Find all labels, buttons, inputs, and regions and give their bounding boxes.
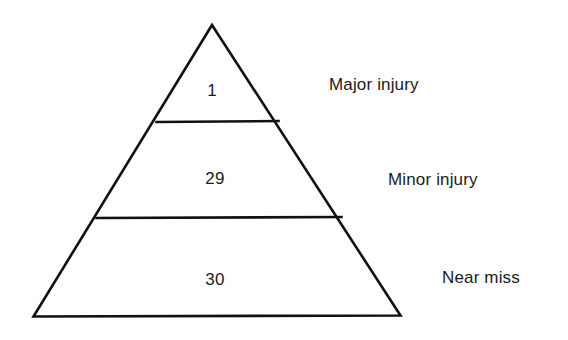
tier-label-near-miss: Near miss — [442, 269, 520, 286]
pyramid-diagram — [0, 0, 568, 340]
tier-label-minor-injury: Minor injury — [388, 171, 478, 188]
tier-divider-lower — [97, 217, 342, 218]
tier-value-major-injury: 1 — [207, 82, 217, 99]
tier-value-near-miss: 30 — [205, 271, 224, 288]
tier-divider-upper — [157, 121, 279, 122]
tier-value-minor-injury: 29 — [205, 170, 224, 187]
tier-label-major-injury: Major injury — [329, 76, 419, 93]
safety-triangle-figure: 1 29 30 Major injury Minor injury Near m… — [0, 0, 568, 340]
